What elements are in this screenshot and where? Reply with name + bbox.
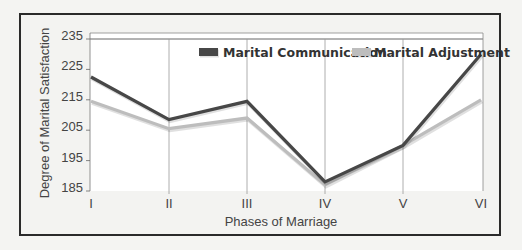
x-axis: IIIIIIIVVVI: [89, 196, 487, 211]
x-tick-label: V: [399, 196, 408, 211]
y-tick-label: 235: [61, 28, 83, 43]
x-tick-label: II: [165, 196, 172, 211]
y-tick-label: 185: [61, 180, 83, 195]
y-axis: 185195205215225235: [61, 28, 90, 195]
y-tick-label: 195: [61, 150, 83, 165]
y-tick-label: 205: [61, 119, 83, 134]
legend-swatch: [352, 48, 371, 56]
x-tick-label: VI: [475, 196, 487, 211]
legend-label: Marital Adjustment: [374, 45, 510, 60]
x-tick-label: IV: [319, 196, 332, 211]
x-axis-title: Phases of Marriage: [225, 214, 338, 229]
y-tick-label: 215: [61, 89, 83, 104]
x-tick-label: III: [242, 196, 253, 211]
y-axis-title: Degree of Marital Satisfaction: [37, 28, 52, 199]
line-chart: 185195205215225235 IIIIIIIVVVI Marital C…: [0, 0, 522, 250]
x-tick-label: I: [89, 196, 93, 211]
legend: Marital CommunicationMarital Adjustment: [199, 45, 510, 60]
y-tick-label: 225: [61, 58, 83, 73]
legend-swatch: [199, 48, 218, 56]
